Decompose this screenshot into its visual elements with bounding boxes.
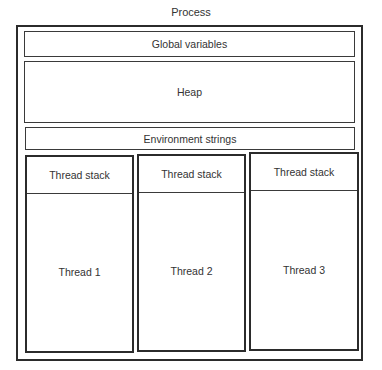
thread-3-box: Thread stack Thread 3 [249, 152, 359, 351]
environment-strings-box: Environment strings [25, 127, 355, 150]
thread-1-label: Thread 1 [27, 193, 132, 351]
environment-strings-label: Environment strings [144, 133, 237, 145]
thread-2-box: Thread stack Thread 2 [137, 154, 246, 352]
thread-2-stack: Thread stack [139, 156, 244, 193]
process-title: Process [0, 6, 382, 18]
thread-2-label: Thread 2 [139, 192, 244, 350]
thread-1-stack: Thread stack [27, 157, 132, 194]
thread-3-stack: Thread stack [251, 154, 357, 191]
thread-3-label: Thread 3 [251, 190, 357, 349]
thread-1-box: Thread stack Thread 1 [25, 155, 134, 353]
heap-label: Heap [177, 86, 202, 98]
heap-box: Heap [24, 61, 355, 123]
global-variables-box: Global variables [24, 31, 355, 57]
global-variables-label: Global variables [152, 38, 227, 50]
